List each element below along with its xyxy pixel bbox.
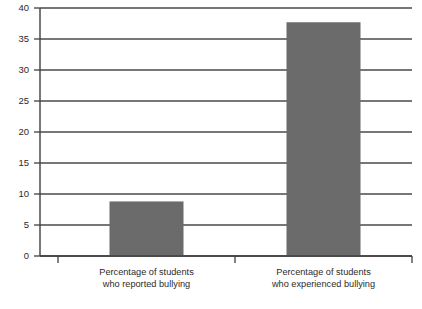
x-category-label-line: who reported bullying	[102, 279, 190, 289]
y-tick-label: 10	[18, 188, 29, 199]
x-category-labels: Percentage of studentswho reported bully…	[99, 267, 375, 289]
y-tick-label: 40	[18, 2, 29, 13]
bars-group	[110, 22, 361, 256]
x-category-label-line: Percentage of students	[99, 267, 194, 277]
y-tick-label: 5	[24, 219, 29, 230]
chart-canvas: 0510152025303540Percentage of studentswh…	[0, 0, 422, 309]
bar	[110, 201, 184, 256]
bar-chart: 0510152025303540Percentage of studentswh…	[0, 0, 422, 309]
x-category-label-line: who experienced bullying	[271, 279, 375, 289]
y-tick-label: 30	[18, 64, 29, 75]
y-tick-label: 0	[24, 250, 29, 261]
x-category-label-line: Percentage of students	[276, 267, 371, 277]
y-tick-label: 20	[18, 126, 29, 137]
bar	[287, 22, 361, 256]
y-tick-label: 15	[18, 157, 29, 168]
y-tick-label: 25	[18, 95, 29, 106]
y-tick-label: 35	[18, 33, 29, 44]
